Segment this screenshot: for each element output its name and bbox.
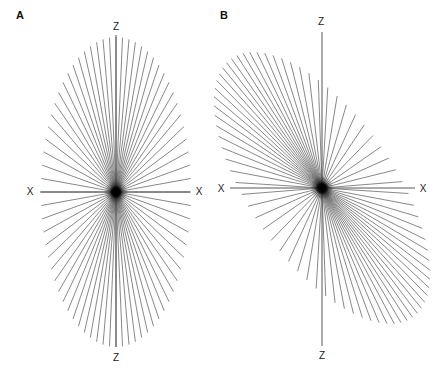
ray-line <box>257 52 322 188</box>
ray-line <box>116 192 188 232</box>
ray-line <box>48 127 116 193</box>
panel-label-b: B <box>220 10 228 21</box>
panel-b-z-bottom-label: Z <box>319 351 325 361</box>
ray-line <box>322 88 328 189</box>
ray-line <box>44 152 116 192</box>
panel-b-z-top-label: Z <box>318 17 324 27</box>
ray-line <box>289 188 323 261</box>
panel-b-x-left-label: X <box>218 184 225 194</box>
ray-line <box>216 126 322 188</box>
ray-line <box>214 106 322 188</box>
ray-line <box>307 188 322 280</box>
ray-line <box>227 63 322 188</box>
ray-line <box>116 152 188 192</box>
ray-line <box>116 127 184 193</box>
ray-line <box>322 188 417 313</box>
panel-a-x-right-label: X <box>196 187 203 197</box>
center-convergence-point <box>104 180 128 204</box>
ray-line <box>116 192 184 258</box>
ray-line <box>322 188 429 261</box>
ray-line <box>322 188 430 270</box>
ray-line <box>48 192 116 258</box>
panel-a-x-left-label: X <box>27 187 34 197</box>
figure: A Z Z X X B Z Z X X <box>0 0 438 381</box>
panel-a-z-bottom-label: Z <box>113 353 119 363</box>
center-convergence-point <box>310 176 334 200</box>
ray-line <box>215 115 322 188</box>
ray-line <box>316 188 322 289</box>
ray-line <box>322 188 387 324</box>
ray-line <box>322 115 356 188</box>
panel-label-a: A <box>16 10 24 21</box>
ray-line <box>322 188 413 317</box>
panel-a-axes <box>40 35 190 347</box>
panel-a-z-top-label: Z <box>113 22 119 32</box>
ray-line <box>44 192 116 232</box>
panel-b-x-right-label: X <box>420 184 427 194</box>
ray-line <box>322 188 428 250</box>
ray-line <box>322 96 337 188</box>
ray-line <box>231 59 322 188</box>
